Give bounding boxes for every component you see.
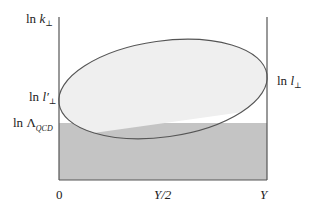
label-ln-l-prime-perp: ln l′⊥ xyxy=(29,90,56,106)
label-ln-k-perp: ln k⊥ xyxy=(26,12,53,28)
x-tick-y: Y xyxy=(260,188,267,202)
x-tick-0: 0 xyxy=(56,188,63,202)
label-ln-l-perp: ln l⊥ xyxy=(277,74,302,90)
x-tick-half-y: Y/2 xyxy=(154,188,171,202)
label-ln-lambda-qcd: ln ΛQCD xyxy=(13,116,53,132)
